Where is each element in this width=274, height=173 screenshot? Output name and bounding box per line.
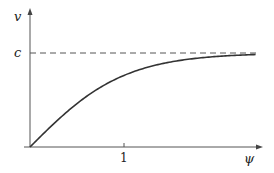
- x-tick-label-1: 1: [120, 151, 128, 165]
- y-axis-label: v: [14, 9, 22, 24]
- asymptote-label: c: [14, 45, 22, 60]
- chart-canvas: v c 1 ψ: [0, 0, 274, 173]
- x-axis-label: ψ: [244, 151, 255, 166]
- data-curve: [30, 55, 256, 147]
- x-axis-arrow-icon: [256, 145, 263, 150]
- y-axis-arrow-icon: [28, 8, 33, 15]
